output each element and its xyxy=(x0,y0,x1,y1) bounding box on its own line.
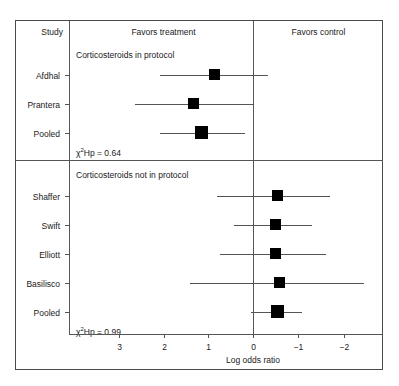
effect-marker-pooled-group2 xyxy=(271,305,284,318)
favors-control-label: Favors control xyxy=(256,27,381,37)
heterogeneity-stat-group2: χ2Hp = 0.99 xyxy=(76,326,121,337)
x-axis-title: Log odds ratio xyxy=(193,355,313,365)
study-label-shaffer: Shaffer xyxy=(16,192,60,202)
row-tick-prantera xyxy=(65,104,70,105)
x-tick-minus1 xyxy=(298,334,299,338)
x-ticklabel-1: 1 xyxy=(194,342,223,352)
row-tick-shaffer xyxy=(65,196,70,197)
effect-marker-basilisco xyxy=(274,277,285,288)
study-label-elliott: Elliott xyxy=(16,250,60,260)
study-label-pooled-group1: Pooled xyxy=(16,129,60,139)
plot-area: Study Favors treatment Favors control Co… xyxy=(16,21,382,369)
study-label-prantera: Prantera xyxy=(16,100,60,110)
plot-frame: Study Favors treatment Favors control Co… xyxy=(15,20,383,370)
study-label-pooled-group2: Pooled xyxy=(16,308,60,318)
x-ticklabel-2: 2 xyxy=(150,342,179,352)
effect-marker-shaffer xyxy=(272,190,283,201)
zero-reference-line xyxy=(253,21,254,334)
effect-marker-pooled-group1 xyxy=(195,126,208,139)
row-tick-afdhal xyxy=(65,75,70,76)
x-tick-3 xyxy=(119,334,120,338)
group1-title: Corticosteroids in protocol xyxy=(76,51,174,60)
group-divider-line xyxy=(16,160,383,161)
x-tick-2 xyxy=(164,334,165,338)
row-tick-basilisco xyxy=(65,283,70,284)
favors-treatment-label: Favors treatment xyxy=(76,27,251,37)
x-ticklabel-minus1: −1 xyxy=(284,342,313,352)
x-ticklabel-minus2: −2 xyxy=(330,342,359,352)
x-ticklabel-3: 3 xyxy=(105,342,134,352)
x-tick-0 xyxy=(253,334,254,338)
study-label-basilisco: Basilisco xyxy=(16,279,60,289)
row-tick-pooled-group2 xyxy=(65,312,70,313)
study-label-afdhal: Afdhal xyxy=(16,71,60,81)
group2-title: Corticosteroids not in protocol xyxy=(76,171,188,180)
effect-marker-elliott xyxy=(270,248,281,259)
x-ticklabel-0: 0 xyxy=(239,342,268,352)
x-axis-line xyxy=(69,334,383,335)
x-tick-1 xyxy=(208,334,209,338)
forest-plot-figure: Study Favors treatment Favors control Co… xyxy=(0,0,399,386)
heterogeneity-stat-group1: χ2Hp = 0.64 xyxy=(76,147,121,158)
chi-text-group1: Hp = 0.64 xyxy=(84,148,121,158)
effect-marker-afdhal xyxy=(209,69,220,80)
effect-marker-prantera xyxy=(188,98,199,109)
label-column-divider xyxy=(69,21,70,334)
row-tick-swift xyxy=(65,225,70,226)
x-tick-minus2 xyxy=(344,334,345,338)
study-label-swift: Swift xyxy=(16,221,60,231)
chi-text-group2: Hp = 0.99 xyxy=(84,327,121,337)
study-column-header: Study xyxy=(16,27,63,37)
row-tick-pooled-group1 xyxy=(65,133,70,134)
effect-marker-swift xyxy=(270,219,281,230)
row-tick-elliott xyxy=(65,254,70,255)
